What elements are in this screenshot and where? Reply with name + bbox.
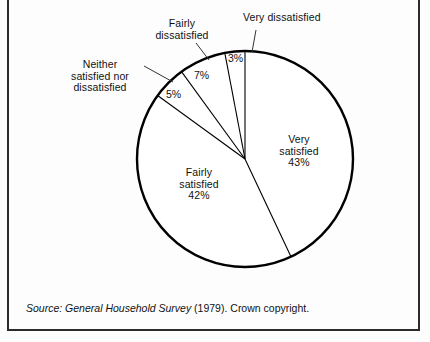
source-title: General Household Survey <box>65 302 191 314</box>
figure-container: Very dissatisfied Fairly dissatisfied Ne… <box>0 0 430 342</box>
pie-label-very-satisfied: Very satisfied 43% <box>268 134 330 169</box>
source-rest: (1979). Crown copyright. <box>194 302 309 314</box>
source-note: Source: General Household Survey (1979).… <box>26 302 309 314</box>
pie-label-very-dissatisfied: Very dissatisfied <box>243 12 321 24</box>
leader-line-fairly-dissatisfied <box>196 43 209 60</box>
pie-value-very-dissatisfied: 3% <box>228 53 243 65</box>
pie-value-neither-satisfied-nor-dissatisfied: 5% <box>166 89 181 101</box>
pie-label-fairly-satisfied: Fairly satisfied 42% <box>163 167 235 202</box>
source-keyword: Source: <box>26 302 62 314</box>
leader-line-very-dissatisfied <box>252 30 256 52</box>
pie-value-fairly-dissatisfied: 7% <box>194 70 209 82</box>
pie-label-fairly-dissatisfied: Fairly dissatisfied <box>139 18 225 41</box>
pie-label-neither-satisfied-nor-dissatisfied: Neither satisfied nor dissatisfied <box>48 59 152 94</box>
